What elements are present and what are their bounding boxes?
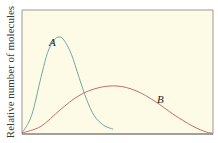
series-a-label: A <box>48 36 56 48</box>
chart: A B <box>0 0 218 143</box>
plot-area <box>22 10 213 134</box>
series-b-label: B <box>157 93 164 105</box>
